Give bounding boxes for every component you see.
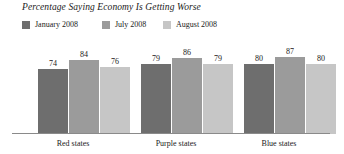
legend-item-0[interactable]: January 2008 xyxy=(22,19,78,31)
legend-swatch-icon xyxy=(102,21,110,29)
bar-rect xyxy=(100,67,130,134)
bar-value-label: 74 xyxy=(38,59,68,68)
bar-value-label: 76 xyxy=(100,57,130,66)
plot-area: 748476798679808780 xyxy=(0,36,344,134)
legend-label: January 2008 xyxy=(35,20,78,30)
bar-value-label: 87 xyxy=(275,47,305,56)
bar-value-label: 86 xyxy=(172,48,202,57)
bar-group-0: 748476 xyxy=(38,36,130,134)
legend-label: July 2008 xyxy=(115,20,146,30)
x-axis-baseline xyxy=(12,133,330,134)
x-axis-label-2: Blue states xyxy=(230,139,328,148)
legend-swatch-icon xyxy=(163,21,171,29)
legend-swatch-icon xyxy=(22,21,30,29)
bar-value-label: 84 xyxy=(69,50,99,59)
bar-rect xyxy=(38,69,68,134)
legend-item-1[interactable]: July 2008 xyxy=(102,19,146,31)
bar-rect xyxy=(203,64,233,134)
bar-rect xyxy=(306,64,336,134)
bar-rect xyxy=(172,58,202,134)
bar-rect xyxy=(275,57,305,134)
legend-label: August 2008 xyxy=(176,20,217,30)
x-axis-label-0: Red states xyxy=(24,139,122,148)
chart-title: Percentage Saying Economy Is Getting Wor… xyxy=(22,2,201,12)
bar-group-1: 798679 xyxy=(141,36,233,134)
bar-chart: Percentage Saying Economy Is Getting Wor… xyxy=(0,0,344,154)
bar-value-label: 79 xyxy=(141,54,171,63)
bar-group-2: 808780 xyxy=(244,36,336,134)
bar-rect xyxy=(141,64,171,134)
bar-rect xyxy=(69,60,99,134)
bar-value-label: 80 xyxy=(306,54,336,63)
bar-value-label: 80 xyxy=(244,54,274,63)
legend-item-2[interactable]: August 2008 xyxy=(163,19,217,31)
x-axis-label-1: Purple states xyxy=(127,139,225,148)
bar-rect xyxy=(244,64,274,134)
bar-value-label: 79 xyxy=(203,54,233,63)
